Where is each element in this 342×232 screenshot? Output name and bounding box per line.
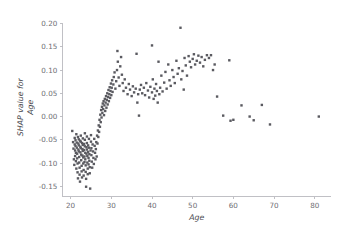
scatter-point (133, 91, 135, 93)
scatter-point (137, 93, 139, 95)
scatter-point (93, 145, 95, 147)
scatter-point (197, 54, 199, 56)
scatter-point (145, 82, 147, 84)
scatter-point (180, 78, 182, 80)
scatter-point (176, 73, 178, 75)
scatter-point (95, 148, 97, 150)
x-tick-label: 50 (188, 201, 198, 210)
scatter-point (89, 166, 91, 168)
y-tick-label: 0.05 (41, 89, 57, 98)
y-tick-label: -0.15 (39, 182, 58, 191)
scatter-point (171, 69, 173, 71)
scatter-point (83, 161, 85, 163)
scatter-point (186, 74, 188, 76)
scatter-point (158, 93, 160, 95)
scatter-point (130, 95, 132, 97)
scatter-point (90, 154, 92, 156)
scatter-point (96, 142, 98, 144)
scatter-point (117, 76, 119, 78)
scatter-point (172, 76, 174, 78)
scatter-point (208, 57, 210, 59)
scatter-point (83, 143, 85, 145)
scatter-point (84, 139, 86, 141)
y-axis-title-line-1: SHAP value for (16, 78, 25, 137)
scatter-point (210, 54, 212, 56)
scatter-point (78, 156, 80, 158)
scatter-point (87, 151, 89, 153)
scatter-point (104, 110, 106, 112)
y-tick-label: -0.10 (39, 159, 58, 168)
scatter-point (140, 84, 142, 86)
scatter-point (74, 155, 76, 157)
scatter-point (151, 44, 153, 46)
scatter-point (117, 61, 119, 63)
scatter-point (121, 74, 123, 76)
scatter-point (119, 65, 121, 67)
scatter-point (85, 186, 87, 188)
scatter-point (91, 166, 93, 168)
scatter-point (74, 149, 76, 151)
scatter-point (229, 120, 231, 122)
scatter-point (77, 177, 79, 179)
scatter-plot-canvas: 0.200.150.100.050.00-0.05-0.10-0.15 2030… (0, 0, 342, 232)
scatter-point (118, 85, 120, 87)
scatter-point (240, 104, 242, 106)
scatter-point (174, 82, 176, 84)
scatter-point (199, 61, 201, 63)
scatter-point (88, 146, 90, 148)
scatter-point (98, 119, 100, 121)
scatter-point (72, 141, 74, 143)
y-tick-label: 0.10 (41, 66, 57, 75)
scatter-point (179, 27, 181, 29)
scatter-point (89, 172, 91, 174)
scatter-point (204, 59, 206, 61)
scatter-point (163, 81, 165, 83)
scatter-point (128, 83, 130, 85)
x-axis-title: Age (188, 213, 204, 222)
scatter-point (84, 171, 86, 173)
scatter-point (115, 80, 117, 82)
scatter-point (86, 135, 88, 137)
scatter-point (95, 155, 97, 157)
scatter-point (196, 60, 198, 62)
scatter-point (147, 89, 149, 91)
scatter-point (183, 88, 185, 90)
scatter-point (120, 56, 122, 58)
x-tick-label: 70 (269, 201, 279, 210)
scatter-point (83, 149, 85, 151)
scatter-point (103, 104, 105, 106)
scatter-point (190, 66, 192, 68)
scatter-point (75, 133, 77, 135)
scatter-point (111, 87, 113, 89)
scatter-point (151, 91, 153, 93)
shap-dependence-plot-figure: 0.200.150.100.050.00-0.05-0.10-0.15 2030… (0, 0, 342, 232)
scatter-point (152, 78, 154, 80)
scatter-point (161, 90, 163, 92)
scatter-point (185, 64, 187, 66)
scatter-point (222, 114, 224, 116)
scatter-point (98, 131, 100, 133)
scatter-point (135, 53, 137, 55)
scatter-point (80, 165, 82, 167)
scatter-point (109, 97, 111, 99)
scatter-point (212, 69, 214, 71)
scatter-point (97, 136, 99, 138)
scatter-point (122, 90, 124, 92)
scatter-point (165, 87, 167, 89)
scatter-point (101, 106, 103, 108)
scatter-point (106, 103, 108, 105)
scatter-point (116, 69, 118, 71)
scatter-point (200, 56, 202, 58)
scatter-point (183, 57, 185, 59)
scatter-point (153, 87, 155, 89)
scatter-point (141, 92, 143, 94)
scatter-point (135, 87, 137, 89)
scatter-point (187, 55, 189, 57)
y-axis-title-line-2: Age (26, 100, 35, 116)
scatter-point (113, 76, 115, 78)
scatter-point (75, 160, 77, 162)
scatter-point (206, 54, 208, 56)
scatter-point (148, 96, 150, 98)
scatter-point (90, 147, 92, 149)
y-tick-label: -0.05 (39, 135, 58, 144)
